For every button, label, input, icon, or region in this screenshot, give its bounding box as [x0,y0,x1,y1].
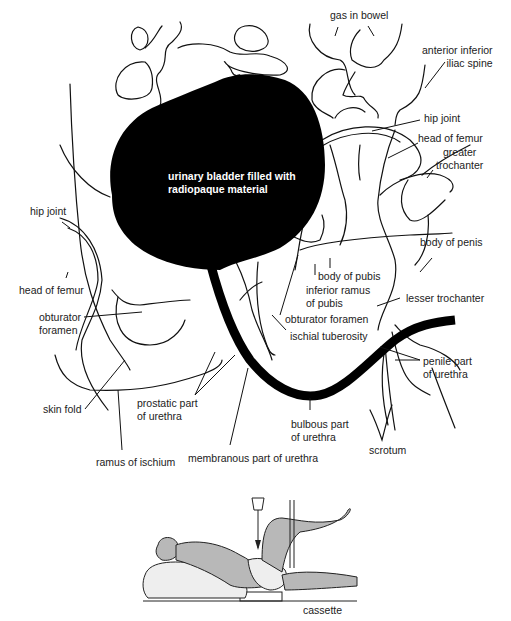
label-skin-fold: skin fold [43,403,82,416]
label-ramus-of-ischium: ramus of ischium [96,456,175,469]
label-line: of urethra [423,368,472,381]
label-line: bulbous part [291,418,349,431]
label-lesser-trochanter: lesser trochanter [406,292,484,305]
label-line: obturator [39,311,81,324]
label-greater-trochanter: greater trochanter [436,146,483,171]
label-cassette: cassette [303,604,342,617]
patient-positioning-inset [143,498,357,601]
label-line: anterior inferior [422,44,493,57]
bladder-label-line-1: urinary bladder filled with [168,170,296,183]
bladder-label-line-2: radiopaque material [168,183,296,196]
label-obturator-foramen-left: obturator foramen [39,311,81,336]
label-anterior-inferior-iliac-spine: anterior inferior iliac spine [422,44,493,69]
label-body-of-pubis: body of pubis [318,270,380,283]
label-line: inferior ramus [306,284,370,297]
label-line: of urethra [137,410,198,423]
beam-arrow-icon [255,540,261,550]
label-membranous-part-of-urethra: membranous part of urethra [188,452,318,465]
label-line: of pubis [306,297,370,310]
label-line: penile part [423,355,472,368]
bladder-label: urinary bladder filled with radiopaque m… [168,170,296,196]
label-hip-joint-right: hip joint [424,112,460,125]
label-penile-part-of-urethra: penile part of urethra [423,355,472,380]
label-line: prostatic part [137,397,198,410]
label-line: foramen [39,324,81,337]
label-inferior-ramus-of-pubis: inferior ramus of pubis [306,284,370,309]
label-ischial-tuberosity: ischial tuberosity [290,330,368,343]
x-ray-tube [252,498,264,510]
label-prostatic-part-of-urethra: prostatic part of urethra [137,397,198,422]
label-bulbous-part-of-urethra: bulbous part of urethra [291,418,349,443]
label-line: iliac spine [422,57,493,70]
label-line: trochanter [436,159,483,172]
label-head-of-femur-left: head of femur [19,284,84,297]
label-hip-joint-left: hip joint [30,205,66,218]
label-scrotum: scrotum [369,444,406,457]
label-gas-in-bowel: gas in bowel [330,9,388,22]
label-line: greater [436,146,483,159]
label-line: of urethra [291,431,349,444]
label-head-of-femur-right: head of femur [418,132,483,145]
label-body-of-penis: body of penis [420,236,482,249]
label-obturator-foramen-right: obturator foramen [285,313,368,326]
